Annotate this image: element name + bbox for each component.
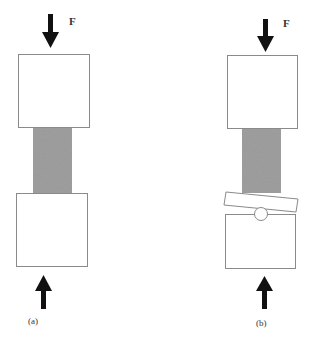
force-label-b: F: [283, 17, 290, 29]
arrow-down-icon: [257, 19, 274, 52]
arrow-down-icon: [42, 14, 59, 48]
caption-b: (b): [256, 318, 267, 328]
upper-platen-a: [19, 55, 90, 128]
specimen-a: [33, 128, 72, 193]
upper-platen-b: [228, 56, 298, 129]
lower-platen-b: [226, 215, 296, 269]
arrow-up-icon: [256, 276, 273, 309]
specimen-b: [242, 129, 281, 193]
compression-test-diagram: F (a) F: [0, 0, 310, 338]
panel-a: F (a): [17, 14, 90, 326]
lower-platen-a: [17, 194, 88, 267]
panel-b: F (b): [224, 17, 298, 328]
arrow-up-icon: [35, 275, 52, 309]
force-label-a: F: [69, 15, 76, 27]
caption-a: (a): [28, 316, 38, 326]
spherical-seat-ball: [255, 208, 268, 221]
